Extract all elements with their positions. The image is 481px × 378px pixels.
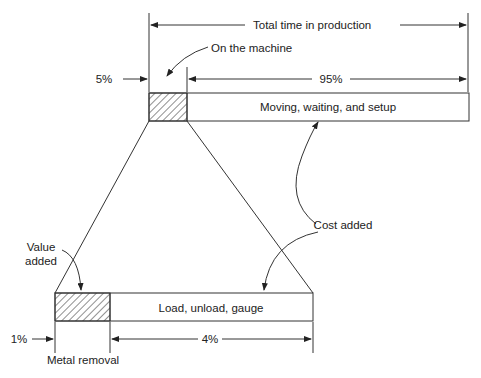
on-machine-label: On the machine: [211, 42, 292, 54]
top-bar-label: Moving, waiting, and setup: [260, 101, 396, 113]
metal-removal-label: Metal removal: [47, 354, 119, 366]
bottom-bar-label: Load, unload, gauge: [159, 302, 264, 314]
pct-1-label: 1%: [11, 333, 28, 345]
production-time-diagram: Total time in production On the machine …: [0, 0, 481, 378]
cost-added-label: Cost added: [314, 219, 373, 231]
total-time-label: Total time in production: [253, 19, 371, 31]
pct-4-label: 4%: [202, 333, 219, 345]
pct-5-label: 5%: [96, 73, 113, 85]
value-added-line1: Value: [27, 241, 56, 253]
pct-95-label: 95%: [319, 73, 342, 85]
value-added-line2: added: [25, 255, 57, 267]
